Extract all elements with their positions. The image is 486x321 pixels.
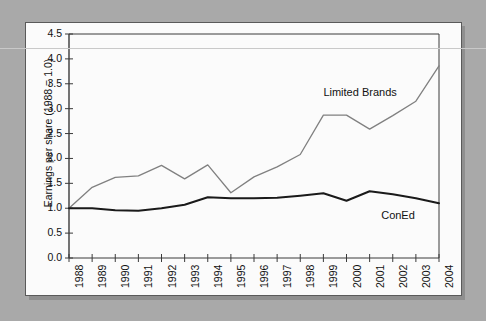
page-horizontal-rule [0, 48, 486, 49]
chart-line-graph [26, 23, 463, 297]
chart-figure-panel: Earnings per share (1988 = 1.0) 0.00.51.… [25, 22, 462, 296]
chart-plot-area: Earnings per share (1988 = 1.0) 0.00.51.… [26, 23, 463, 297]
